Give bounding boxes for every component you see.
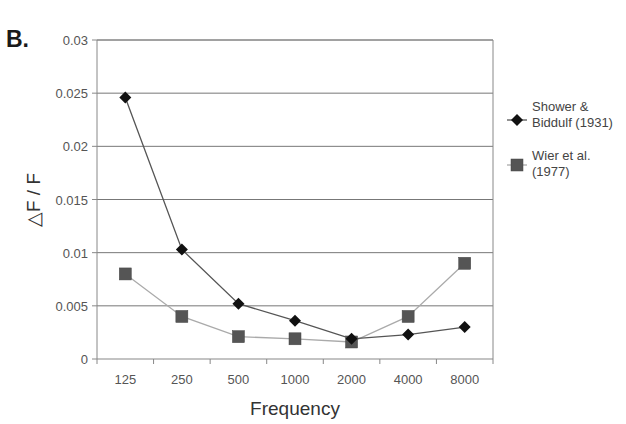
legend-label: Shower &	[532, 99, 589, 114]
y-tick-label: 0.01	[63, 246, 88, 261]
square-marker	[511, 159, 523, 171]
series-line	[125, 263, 464, 342]
y-tick-label: 0.015	[55, 193, 88, 208]
y-axis-title: △F / F	[23, 173, 44, 227]
y-tick-label: 0	[81, 352, 88, 367]
legend-label: (1977)	[532, 164, 570, 179]
square-marker	[289, 333, 301, 345]
diamond-marker	[459, 321, 471, 333]
legend-item: Shower &Biddulf (1931)	[507, 99, 613, 130]
x-axis-ticks: 1252505001000200040008000	[97, 359, 493, 387]
legend-label: Biddulf (1931)	[532, 115, 613, 130]
y-tick-label: 0.005	[55, 299, 88, 314]
y-axis-ticks: 00.0050.010.0150.020.0250.03	[55, 33, 97, 367]
legend: Shower &Biddulf (1931)Wier et al.(1977)	[507, 99, 613, 179]
square-marker	[176, 310, 188, 322]
x-tick-label: 250	[171, 372, 193, 387]
square-marker	[402, 310, 414, 322]
diamond-marker	[402, 329, 414, 341]
legend-label: Wier et al.	[532, 148, 591, 163]
square-marker	[119, 268, 131, 280]
diamond-marker	[289, 315, 301, 327]
x-tick-label: 2000	[337, 372, 366, 387]
square-marker	[459, 257, 471, 269]
data-series	[119, 91, 470, 348]
line-chart: 00.0050.010.0150.020.0250.03 12525050010…	[0, 0, 626, 424]
y-tick-label: 0.02	[63, 139, 88, 154]
x-tick-label: 500	[228, 372, 250, 387]
series-line	[125, 97, 464, 338]
x-tick-label: 125	[114, 372, 136, 387]
diamond-marker	[511, 114, 523, 126]
x-tick-label: 8000	[450, 372, 479, 387]
x-axis-title: Frequency	[250, 398, 340, 419]
x-tick-label: 1000	[281, 372, 310, 387]
series-2	[119, 257, 470, 348]
gridlines	[97, 40, 493, 306]
square-marker	[232, 331, 244, 343]
legend-item: Wier et al.(1977)	[507, 148, 591, 179]
x-tick-label: 4000	[394, 372, 423, 387]
y-tick-label: 0.025	[55, 86, 88, 101]
y-tick-label: 0.03	[63, 33, 88, 48]
